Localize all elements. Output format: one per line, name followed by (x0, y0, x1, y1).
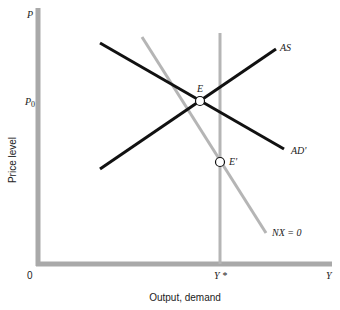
p0-tick-label: P0 (24, 96, 35, 109)
ad-curve (100, 43, 284, 149)
nx-zero-label: NX = 0 (271, 227, 302, 238)
y-axis-title: Price level (7, 137, 18, 183)
ad-label: AD' (290, 145, 307, 156)
x-axis-symbol: Y (326, 270, 333, 281)
origin-label: 0 (27, 270, 33, 281)
as-curve (100, 49, 276, 169)
equilibrium-point-e-prime (216, 158, 225, 167)
y-axis-symbol: P (26, 9, 33, 20)
y-star-tick-label: Y * (214, 270, 227, 281)
as-label: AS (279, 42, 291, 53)
e-label: E (196, 83, 203, 94)
equilibrium-point-e (196, 97, 205, 106)
nx-zero-curve (142, 37, 266, 233)
x-axis-title: Output, demand (149, 292, 221, 303)
ad-as-diagram: P P0 Price level 0 Y * Y Output, demand … (0, 0, 340, 310)
e-prime-label: E' (228, 156, 238, 167)
